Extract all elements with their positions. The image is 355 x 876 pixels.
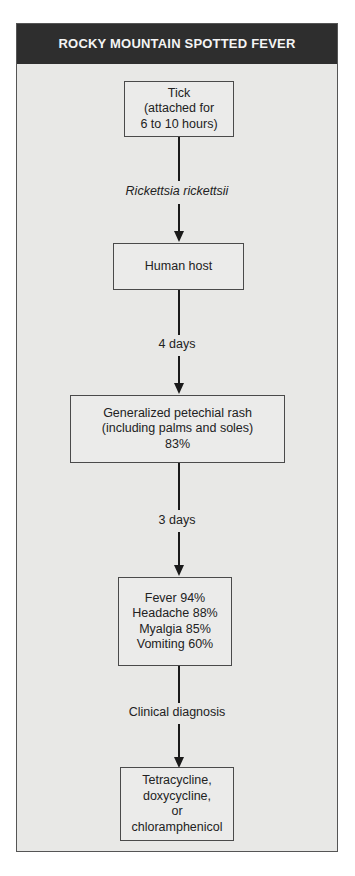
edge-label-clinical-diagnosis: Clinical diagnosis: [17, 705, 337, 719]
arrow-down-icon: [174, 565, 184, 576]
node-human-host: Human host: [113, 243, 244, 290]
edge-label-4-days: 4 days: [17, 337, 337, 351]
connector-line: [178, 666, 180, 703]
node-rash-percent: 83%: [102, 437, 253, 453]
symptom-myalgia: Myalgia 85%: [132, 622, 217, 638]
node-tick-line: Tick: [140, 86, 217, 102]
treatment-line: Tetracycline,: [131, 773, 222, 789]
arrow-down-icon: [174, 383, 184, 394]
symptom-fever: Fever 94%: [132, 591, 217, 607]
node-rash-line: Generalized petechial rash: [102, 406, 253, 422]
connector-line: [178, 290, 180, 335]
node-symptoms: Fever 94% Headache 88% Myalgia 85% Vomit…: [118, 577, 232, 666]
connector-line: [178, 137, 180, 181]
node-rash-line: (including palms and soles): [102, 421, 253, 437]
node-host-label: Human host: [145, 259, 212, 275]
treatment-line: doxycycline,: [131, 789, 222, 805]
diagram-frame: ROCKY MOUNTAIN SPOTTED FEVER Tick (attac…: [16, 23, 338, 852]
node-treatment: Tetracycline, doxycycline, or chloramphe…: [120, 767, 234, 841]
treatment-line: or: [131, 804, 222, 820]
edge-label-3-days: 3 days: [17, 513, 337, 527]
node-tick-line: (attached for: [140, 101, 217, 117]
arrow-down-icon: [174, 231, 184, 242]
node-tick-line: 6 to 10 hours): [140, 117, 217, 133]
node-rash: Generalized petechial rash (including pa…: [70, 395, 285, 463]
connector-line: [178, 532, 180, 566]
symptom-headache: Headache 88%: [132, 606, 217, 622]
connector-line: [178, 204, 180, 232]
edge-label-pathogen: Rickettsia rickettsii: [17, 184, 337, 198]
connector-line: [178, 356, 180, 384]
connector-line: [178, 724, 180, 758]
treatment-line: chloramphenicol: [131, 820, 222, 836]
node-tick: Tick (attached for 6 to 10 hours): [124, 81, 234, 137]
connector-line: [178, 463, 180, 510]
diagram-title: ROCKY MOUNTAIN SPOTTED FEVER: [17, 24, 337, 64]
symptom-vomiting: Vomiting 60%: [132, 637, 217, 653]
